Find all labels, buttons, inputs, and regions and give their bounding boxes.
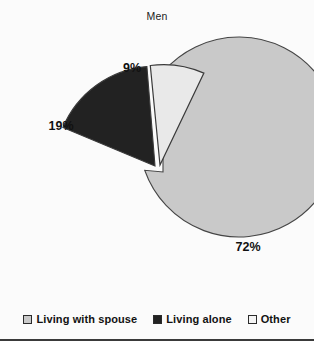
legend-label-living-alone: Living alone bbox=[166, 313, 231, 325]
slice-value-label-other: 9% bbox=[123, 61, 141, 75]
legend-swatch-icon-living-with-spouse bbox=[23, 315, 32, 324]
pie-chart-graphic: 72% 19% 9% bbox=[0, 0, 314, 341]
pie-chart-figure: Men 72% 19% 9% Living with spouse Living… bbox=[0, 0, 314, 341]
chart-legend: Living with spouse Living alone Other bbox=[0, 313, 314, 325]
pie-slice-living-alone[interactable] bbox=[63, 67, 155, 166]
legend-swatch-icon-living-alone bbox=[153, 315, 162, 324]
legend-swatch-icon-other bbox=[248, 315, 257, 324]
legend-item-living-alone[interactable]: Living alone bbox=[153, 313, 231, 325]
legend-item-other[interactable]: Other bbox=[248, 313, 291, 325]
legend-item-living-with-spouse[interactable]: Living with spouse bbox=[23, 313, 137, 325]
legend-label-other: Other bbox=[261, 313, 291, 325]
legend-label-living-with-spouse: Living with spouse bbox=[36, 313, 137, 325]
slice-value-label-living-alone: 19% bbox=[48, 119, 73, 133]
slice-value-label-living-with-spouse: 72% bbox=[235, 240, 260, 254]
